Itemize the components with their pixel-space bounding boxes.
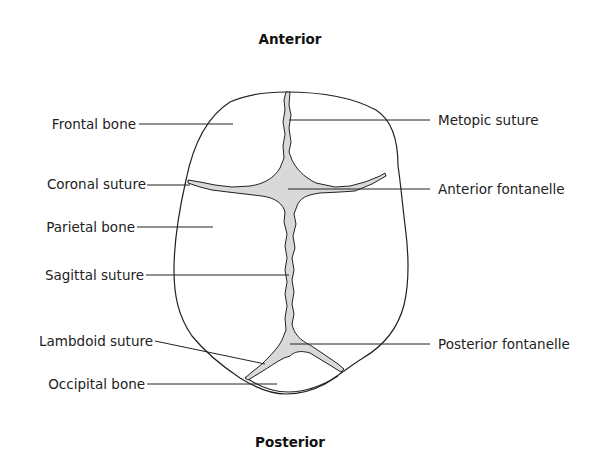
label-occipital-bone: Occipital bone [48,376,145,392]
label-coronal-suture: Coronal suture [47,176,146,192]
label-lambdoid-suture: Lambdoid suture [39,333,153,349]
heading-anterior: Anterior [259,31,322,47]
skull-diagram: Anterior Posterior Frontal bone Coronal … [0,0,605,465]
label-metopic-suture: Metopic suture [438,112,539,128]
lambdoid-suture-leader [155,341,265,364]
suture-network [188,92,386,380]
label-frontal-bone: Frontal bone [52,116,136,132]
label-sagittal-suture: Sagittal suture [45,267,144,283]
label-anterior-fontanelle: Anterior fontanelle [438,181,565,197]
label-posterior-fontanelle: Posterior fontanelle [438,336,570,352]
label-parietal-bone: Parietal bone [46,219,135,235]
heading-posterior: Posterior [255,434,325,450]
